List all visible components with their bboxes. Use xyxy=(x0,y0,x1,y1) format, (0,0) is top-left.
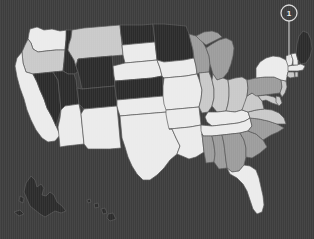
state-RI[interactable] xyxy=(295,72,298,77)
state-IN[interactable] xyxy=(212,74,229,112)
marker-label-1: 1 xyxy=(287,9,292,18)
state-CT[interactable] xyxy=(287,72,295,78)
state-WY[interactable] xyxy=(76,56,115,89)
state-AZ[interactable] xyxy=(58,104,84,147)
state-CO[interactable] xyxy=(77,86,117,109)
state-ND[interactable] xyxy=(120,24,155,45)
us-choropleth-map: 1 xyxy=(0,0,314,239)
state-NM[interactable] xyxy=(81,106,121,149)
state-MO[interactable] xyxy=(163,74,202,110)
us-map-container: 1 xyxy=(0,0,314,239)
state-PA[interactable] xyxy=(247,77,282,96)
state-SD[interactable] xyxy=(122,42,157,63)
state-WA[interactable] xyxy=(28,27,67,52)
